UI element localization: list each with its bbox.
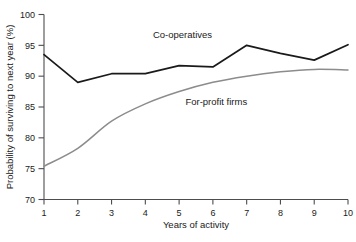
y-axis: 707580859095100 Probability of surviving… — [4, 10, 44, 205]
y-tick-label: 85 — [25, 102, 35, 112]
y-tick-label: 95 — [25, 41, 35, 51]
x-tick-label: 2 — [75, 208, 80, 218]
series-line-for-profit-firms — [44, 69, 348, 166]
series-label-for-profit-firms: For-profit firms — [185, 96, 247, 107]
x-tick-label: 7 — [244, 208, 249, 218]
y-tick-label: 90 — [25, 71, 35, 81]
y-tick-group: 707580859095100 — [20, 10, 44, 205]
line-chart: 707580859095100 Probability of surviving… — [0, 0, 356, 242]
y-tick-label: 70 — [25, 195, 35, 205]
x-tick-label: 1 — [41, 208, 46, 218]
y-axis-title: Probability of surviving to next year (%… — [4, 25, 15, 190]
y-tick-label: 80 — [25, 133, 35, 143]
x-axis: 12345678910 Years of activity — [41, 200, 353, 231]
x-tick-label: 10 — [343, 208, 353, 218]
y-tick-label: 75 — [25, 164, 35, 174]
x-tick-label: 9 — [312, 208, 317, 218]
chart-figure: 707580859095100 Probability of surviving… — [0, 0, 356, 242]
x-tick-label: 8 — [278, 208, 283, 218]
x-tick-label: 4 — [143, 208, 148, 218]
x-tick-label: 6 — [210, 208, 215, 218]
series-line-co-operatives — [44, 45, 348, 83]
x-tick-group: 12345678910 — [41, 200, 353, 218]
y-tick-label: 100 — [20, 10, 35, 20]
x-axis-title: Years of activity — [163, 219, 229, 230]
x-tick-label: 3 — [109, 208, 114, 218]
x-tick-label: 5 — [177, 208, 182, 218]
series-label-co-operatives: Co-operatives — [153, 29, 212, 40]
